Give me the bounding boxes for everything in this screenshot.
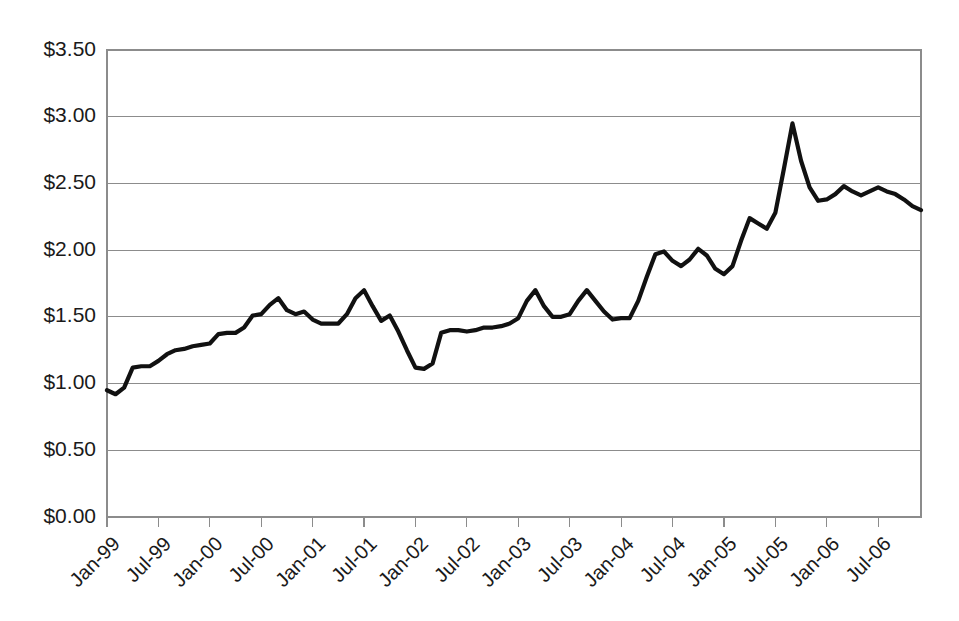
y-tick-label: $3.00 [43,103,96,126]
y-tick-label: $0.00 [43,504,96,527]
line-chart-figure: $0.00$0.50$1.00$1.50$2.00$2.50$3.00$3.50… [0,0,959,621]
y-tick-label: $2.00 [43,237,96,260]
y-tick-label: $1.50 [43,303,96,326]
y-tick-label: $3.50 [43,37,96,60]
y-tick-label: $1.00 [43,370,96,393]
y-tick-label: $2.50 [43,170,96,193]
y-tick-label: $0.50 [43,437,96,460]
chart-background [0,0,959,621]
chart-canvas: $0.00$0.50$1.00$1.50$2.00$2.50$3.00$3.50… [0,0,959,621]
